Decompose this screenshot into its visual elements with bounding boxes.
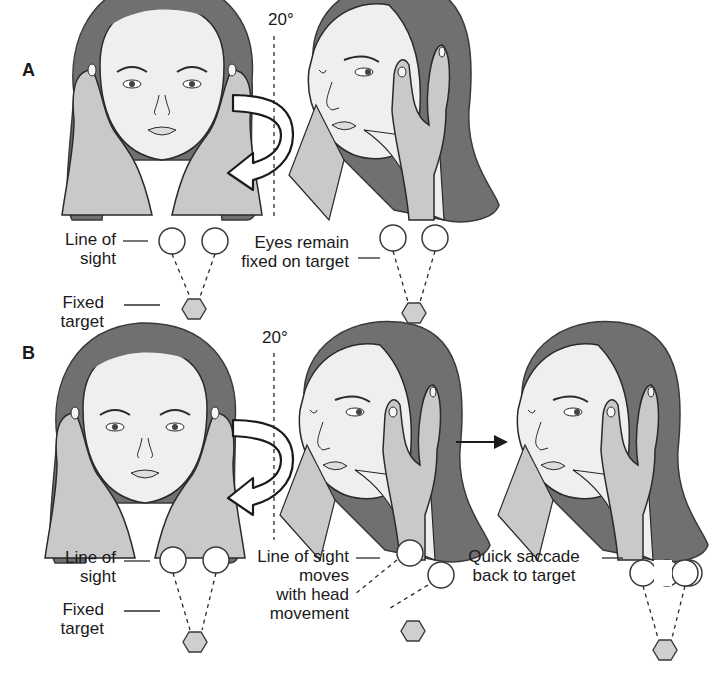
panel-b-fixed-target-label: Fixed target xyxy=(40,600,104,638)
panel-b-label: B xyxy=(22,343,35,364)
panel-a-eyes-remain-label: Eyes remain fixed on target xyxy=(215,233,349,271)
panel-a-rotation-degrees: 20° xyxy=(268,10,294,30)
panel-b-moves-with-head-label: Line of sight moves with head movement xyxy=(225,547,349,623)
panel-b-rotation-degrees: 20° xyxy=(262,328,288,348)
panel-b-quick-saccade-label: Quick saccade back to target xyxy=(452,547,596,585)
panel-a-label: A xyxy=(22,60,35,81)
panel-a-fixed-target-label: Fixed target xyxy=(40,293,104,331)
panel-b-line-of-sight-label: Line of sight xyxy=(40,548,116,586)
panel-a-line-of-sight-label: Line of sight xyxy=(40,230,116,268)
